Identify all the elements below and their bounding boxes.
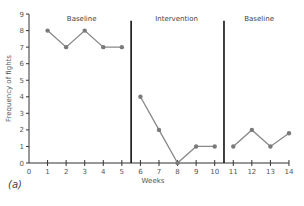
x-tick-label: 10	[210, 168, 219, 176]
x-tick-label: 6	[138, 168, 143, 176]
data-point	[231, 144, 235, 148]
data-point	[45, 28, 49, 32]
x-tick-label: 4	[101, 168, 106, 176]
x-tick-label: 3	[82, 168, 86, 176]
y-tick-label: 5	[20, 77, 24, 85]
x-tick-label: 13	[266, 168, 275, 176]
y-tick-label: 4	[20, 93, 25, 101]
y-tick-label: 1	[20, 143, 24, 151]
panel-label: (a)	[8, 179, 22, 190]
x-tick-label: 14	[285, 168, 294, 176]
data-point	[287, 131, 291, 135]
data-point	[250, 128, 254, 132]
data-point	[83, 28, 87, 32]
y-tick-label: 2	[20, 126, 24, 134]
x-tick-label: 7	[157, 168, 161, 176]
data-line	[233, 130, 289, 147]
x-axis-title: Weeks	[142, 177, 165, 185]
data-point	[213, 144, 217, 148]
data-point	[101, 45, 105, 49]
x-tick-label: 1	[45, 168, 49, 176]
data-point	[175, 161, 179, 165]
data-point	[157, 128, 161, 132]
y-tick-label: 9	[20, 11, 24, 19]
data-point	[194, 144, 198, 148]
x-tick-label: 12	[247, 168, 256, 176]
x-tick-label: 8	[175, 168, 179, 176]
y-tick-label: 3	[20, 110, 24, 118]
data-point	[64, 45, 68, 49]
data-point	[268, 144, 272, 148]
data-line	[140, 97, 214, 163]
y-axis-title: Frequency of fights	[5, 55, 13, 122]
x-tick-label: 0	[27, 168, 31, 176]
x-tick-label: 2	[64, 168, 68, 176]
data-point	[120, 45, 124, 49]
y-tick-label: 7	[20, 44, 24, 52]
x-tick-label: 5	[120, 168, 124, 176]
x-tick-label: 9	[194, 168, 198, 176]
y-tick-label: 0	[20, 160, 24, 168]
phase-label: Intervention	[155, 15, 198, 23]
x-tick-label: 11	[229, 168, 238, 176]
y-tick-label: 6	[20, 60, 25, 68]
y-tick-label: 8	[20, 27, 24, 35]
phase-label: Baseline	[244, 15, 274, 23]
data-point	[138, 95, 142, 99]
data-line	[48, 31, 122, 48]
single-subject-line-chart: 012345678901234567891011121314WeeksFrequ…	[0, 0, 304, 206]
phase-label: Baseline	[67, 15, 97, 23]
